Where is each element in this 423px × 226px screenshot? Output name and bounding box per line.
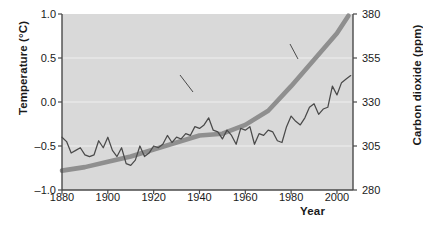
plot-canvas bbox=[0, 0, 423, 226]
figure-chart-co2-temperature: Temperature (°C) Carbon dioxide (ppm) Ye… bbox=[0, 0, 423, 226]
